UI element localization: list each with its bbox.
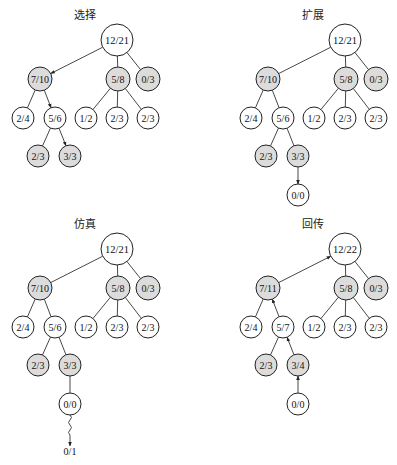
tree-node-b1: 1/2: [303, 107, 325, 129]
node-label: 2/3: [111, 322, 124, 333]
tree-node-root: 12/21: [101, 233, 133, 265]
node-label: 2/3: [142, 322, 155, 333]
tree-node-a22: 3/3: [59, 354, 81, 376]
tree-node-b2: 2/3: [334, 316, 356, 338]
tree-node-c: 0/3: [136, 276, 160, 300]
tree-edge: [125, 298, 141, 319]
tree-edge: [42, 128, 50, 146]
node-label: 3/3: [64, 360, 77, 371]
tree-edge: [44, 299, 51, 317]
node-label: 5/8: [340, 283, 353, 294]
tree-node-root: 12/22: [329, 233, 361, 265]
mcts-diagram: 选择12/217/105/80/32/45/61/22/32/32/33/3扩展…: [0, 0, 397, 465]
tree-edge: [353, 89, 369, 110]
node-label: 2/4: [17, 322, 30, 333]
tree-node-a2: 5/6: [44, 107, 66, 129]
node-label: 7/10: [31, 74, 49, 85]
tree-edge: [321, 297, 338, 318]
tree-edge: [93, 88, 110, 109]
node-label: 1/2: [80, 322, 93, 333]
node-label: 2/4: [245, 322, 258, 333]
tree-node-b3: 2/3: [365, 107, 387, 129]
tree-node-b3: 2/3: [365, 316, 387, 338]
tree-node-a2: 5/6: [44, 316, 66, 338]
node-label: 2/3: [370, 113, 383, 124]
tree-edge: [270, 337, 278, 355]
panel-title: 回传: [302, 218, 324, 231]
tree-edge: [51, 47, 103, 73]
tree-node-b: 5/8: [106, 67, 130, 91]
node-label: 2/3: [339, 322, 352, 333]
tree-edge: [59, 128, 66, 146]
panel-title: 扩展: [302, 8, 324, 22]
tree-node-a21: 2/3: [27, 354, 49, 376]
node-label: 5/8: [112, 74, 125, 85]
node-label: 0/0: [292, 190, 305, 201]
tree-node-a21: 2/3: [255, 145, 277, 167]
tree-edge: [287, 128, 294, 146]
tree-edge: [353, 298, 369, 319]
tree-node-b2: 2/3: [334, 107, 356, 129]
node-label: 5/8: [340, 74, 353, 85]
node-label: 2/3: [260, 151, 273, 162]
tree-edge: [255, 299, 263, 317]
node-label: 0/0: [292, 399, 305, 410]
tree-node-a1: 2/4: [240, 316, 262, 338]
tree-edge: [272, 90, 279, 108]
panel-backpropagation: 回传12/227/115/80/32/45/71/22/32/32/33/40/…: [240, 218, 388, 415]
node-label: 0/3: [370, 74, 383, 85]
node-label: 0/0: [64, 399, 77, 410]
node-label: 2/3: [260, 360, 273, 371]
tree-edge: [44, 90, 51, 108]
node-label: 0/3: [142, 74, 155, 85]
tree-node-b1: 1/2: [75, 107, 97, 129]
node-label: 1/2: [308, 322, 321, 333]
tree-node-a1: 2/4: [12, 107, 34, 129]
node-label: 0/3: [142, 283, 155, 294]
node-label: 1/2: [308, 113, 321, 124]
tree-node-b1: 1/2: [303, 316, 325, 338]
tree-node-c: 0/3: [364, 276, 388, 300]
tree-node-a22: 3/4: [287, 354, 309, 376]
tree-node-a2: 5/6: [272, 107, 294, 129]
tree-node-b3: 2/3: [137, 316, 159, 338]
tree-edge: [51, 256, 103, 282]
node-label: 2/3: [111, 113, 124, 124]
tree-edge: [272, 299, 279, 317]
node-label: 5/6: [49, 113, 62, 124]
tree-node-new: 0/0: [287, 393, 309, 415]
node-label: 5/6: [49, 322, 62, 333]
node-label: 0/3: [370, 283, 383, 294]
node-label: 2/3: [32, 151, 45, 162]
node-label: 7/10: [259, 74, 277, 85]
node-label: 2/3: [370, 322, 383, 333]
tree-edge: [355, 53, 369, 70]
panels-container: 选择12/217/105/80/32/45/61/22/32/32/33/3扩展…: [12, 8, 388, 457]
node-label: 2/4: [245, 113, 258, 124]
panel-simulation: 仿真0/112/217/105/80/32/45/61/22/32/32/33/…: [12, 217, 160, 457]
tree-edge: [270, 128, 278, 146]
node-label: 5/7: [277, 322, 290, 333]
tree-edge: [127, 53, 141, 70]
tree-node-b: 5/8: [334, 276, 358, 300]
tree-node-a: 7/10: [256, 67, 280, 91]
node-label: 7/11: [259, 283, 276, 294]
tree-node-new: 0/0: [59, 393, 81, 415]
tree-edge: [27, 90, 35, 108]
tree-edge: [321, 88, 338, 109]
tree-node-a22: 3/3: [59, 145, 81, 167]
tree-edge: [255, 90, 263, 108]
tree-node-b: 5/8: [106, 276, 130, 300]
tree-node-b1: 1/2: [75, 316, 97, 338]
node-label: 7/10: [31, 283, 49, 294]
tree-node-a21: 2/3: [27, 145, 49, 167]
tree-node-c: 0/3: [364, 67, 388, 91]
tree-node-b2: 2/3: [106, 107, 128, 129]
tree-edge: [42, 337, 50, 355]
tree-node-c: 0/3: [136, 67, 160, 91]
tree-node-a1: 2/4: [12, 316, 34, 338]
node-label: 2/3: [339, 113, 352, 124]
tree-node-a: 7/10: [28, 276, 52, 300]
tree-node-root: 12/21: [329, 24, 361, 56]
tree-edge: [279, 256, 331, 282]
